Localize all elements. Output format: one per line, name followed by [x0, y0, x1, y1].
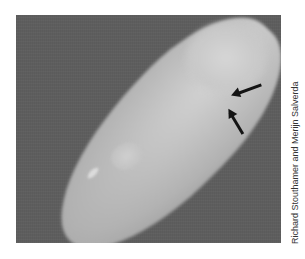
cell-bright-tip — [186, 23, 266, 93]
micrograph-photo — [16, 15, 281, 243]
photo-credit: Richard Stouthamer and Merijn Salverda — [290, 81, 300, 244]
